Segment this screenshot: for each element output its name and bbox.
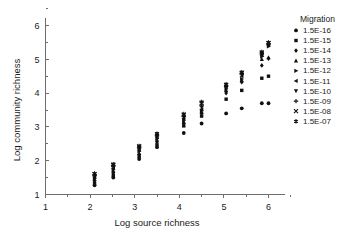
scatter-chart-figure: 123456123456 Log source richnessLog comm…	[0, 0, 354, 240]
legend-item-label: 1.5E-08	[303, 107, 332, 116]
x-axis-tick-label: 2	[88, 202, 93, 212]
marker-circle	[294, 29, 298, 33]
legend-item-label: 1.5E-16	[303, 26, 332, 35]
marker-circle	[224, 111, 228, 115]
y-axis-tick-label: 5	[34, 55, 39, 65]
chart-canvas: 123456123456 Log source richnessLog comm…	[0, 0, 354, 240]
marker-square	[294, 39, 297, 42]
marker-circle	[240, 106, 244, 110]
y-axis-tick-label: 3	[34, 122, 39, 132]
x-axis-title: Log source richness	[114, 217, 199, 228]
legend-item-label: 1.5E-12	[303, 66, 332, 75]
x-axis-tick-label: 4	[177, 202, 182, 212]
x-axis-tick-label: 5	[221, 202, 226, 212]
y-axis-tick-label: 6	[34, 21, 39, 31]
y-axis-tick-label: 2	[34, 156, 39, 166]
legend-title: Migration	[300, 14, 335, 24]
marker-square	[240, 89, 243, 92]
y-axis-title: Log community richness	[11, 59, 22, 162]
legend-item-label: 1.5E-10	[303, 87, 332, 96]
x-axis-tick-label: 1	[43, 202, 48, 212]
y-axis-tick-label: 1	[34, 190, 39, 200]
marker-circle	[260, 101, 264, 105]
marker-square	[224, 97, 227, 100]
marker-square	[267, 75, 270, 78]
legend-item-label: 1.5E-13	[303, 56, 332, 65]
marker-circle	[200, 122, 204, 126]
marker-square	[260, 77, 263, 80]
marker-circle	[182, 131, 186, 135]
legend-item-label: 1.5E-09	[303, 97, 332, 106]
legend-item-label: 1.5E-11	[303, 77, 331, 86]
y-axis-tick-label: 4	[34, 88, 39, 98]
legend-item-label: 1.5E-15	[303, 36, 332, 45]
legend-item-label: 1.5E-07	[303, 117, 332, 126]
legend-item-label: 1.5E-14	[303, 46, 332, 55]
marker-circle	[267, 101, 271, 105]
x-axis-tick-label: 6	[266, 202, 271, 212]
x-axis-tick-label: 3	[132, 202, 137, 212]
